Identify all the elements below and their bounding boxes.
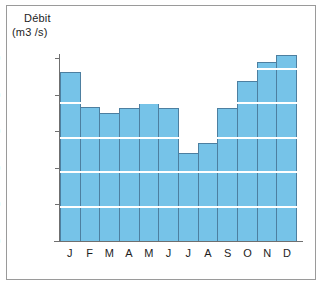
bar-M2[interactable] (139, 103, 160, 241)
x-tick-label-9: O (238, 247, 258, 259)
bar-S[interactable] (217, 108, 238, 241)
x-tick-label-6: J (179, 247, 199, 259)
bar-J[interactable] (60, 72, 81, 241)
chart-title-line-1: Débit (12, 12, 51, 26)
x-axis-line (54, 241, 303, 242)
x-tick-label-8: S (218, 247, 238, 259)
bar-D[interactable] (276, 55, 297, 241)
x-tick-label-4: M (139, 247, 159, 259)
x-axis-tick-labels: J F M A M J J A S O N D (60, 247, 297, 259)
chart-figure: Débit (m3 /s) 0 10 000 20 000 30 000 40 … (0, 0, 323, 287)
chart-title: Débit (m3 /s) (12, 12, 51, 40)
bar-O[interactable] (237, 81, 258, 241)
x-tick-label-2: M (100, 247, 120, 259)
x-tick-label-0: J (60, 247, 80, 259)
x-tick-label-1: F (80, 247, 100, 259)
x-tick-label-10: N (258, 247, 278, 259)
bar-N[interactable] (257, 62, 278, 241)
chart-title-line-2: (m3 /s) (12, 26, 51, 40)
bar-J2[interactable] (158, 108, 179, 241)
bar-F[interactable] (80, 107, 101, 241)
bar-A2[interactable] (198, 143, 219, 241)
x-tick-label-11: D (277, 247, 297, 259)
plot-area (60, 48, 297, 241)
bar-J3[interactable] (178, 153, 199, 241)
x-tick-label-3: A (119, 247, 139, 259)
bar-M[interactable] (99, 113, 120, 241)
y-axis-tick-0 (55, 241, 60, 242)
bar-series (60, 48, 297, 241)
bar-A[interactable] (119, 108, 140, 241)
x-tick-label-5: J (159, 247, 179, 259)
x-tick-label-7: A (198, 247, 218, 259)
